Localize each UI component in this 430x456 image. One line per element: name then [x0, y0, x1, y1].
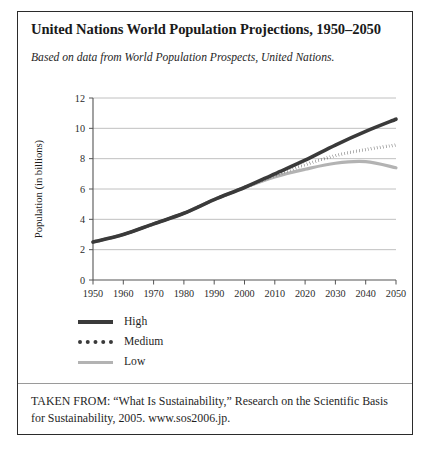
- figure-panel: United Nations World Population Projecti…: [17, 11, 413, 435]
- x-tick-label: 1950: [83, 288, 103, 299]
- x-tick-label: 1960: [113, 288, 133, 299]
- y-tick-label: 4: [80, 214, 85, 225]
- legend-swatch-low: [78, 356, 113, 368]
- legend-swatch-high: [78, 316, 113, 328]
- y-tick-label: 0: [80, 275, 85, 286]
- legend-label: Low: [124, 356, 145, 368]
- source-note: TAKEN FROM: “What Is Sustainability,” Re…: [31, 393, 403, 427]
- y-tick-label: 6: [80, 184, 85, 195]
- x-tick-label: 2020: [295, 288, 315, 299]
- series-line-high: [93, 119, 396, 242]
- legend-swatch-medium: [78, 336, 113, 348]
- x-tick-label: 2030: [325, 288, 345, 299]
- x-tick-label: 2000: [234, 288, 254, 299]
- gridlines: [93, 98, 396, 250]
- y-tick-label: 8: [80, 153, 85, 164]
- y-axis-label: Population (in billions): [33, 139, 45, 238]
- x-axis-ticks: 1950196019701980199020002010202020302040…: [83, 280, 406, 299]
- x-tick-label: 2040: [356, 288, 376, 299]
- y-tick-label: 12: [75, 93, 85, 104]
- chart-title: United Nations World Population Projecti…: [31, 21, 403, 38]
- x-tick-label: 1970: [143, 288, 163, 299]
- legend-swatch-bar: [78, 340, 113, 344]
- legend-item-low: Low: [78, 352, 298, 372]
- legend: HighMediumLow: [78, 312, 298, 372]
- line-chart-svg: 024681012 195019601970198019902000201020…: [18, 74, 414, 299]
- data-series-layer: [93, 119, 396, 242]
- y-tick-label: 10: [75, 123, 85, 134]
- x-tick-label: 2010: [265, 288, 285, 299]
- y-tick-label: 2: [80, 244, 85, 255]
- x-tick-label: 2050: [386, 288, 406, 299]
- legend-label: High: [124, 316, 147, 328]
- footer-divider: [18, 383, 412, 384]
- legend-label: Medium: [124, 336, 163, 348]
- x-tick-label: 1990: [204, 288, 224, 299]
- legend-item-high: High: [78, 312, 298, 332]
- legend-swatch-bar: [78, 320, 113, 324]
- x-tick-label: 1980: [174, 288, 194, 299]
- plot-area: 024681012 195019601970198019902000201020…: [18, 74, 414, 299]
- legend-swatch-bar: [78, 361, 113, 364]
- y-axis-ticks: 024681012: [75, 93, 93, 286]
- legend-item-medium: Medium: [78, 332, 298, 352]
- chart-subtitle: Based on data from World Population Pros…: [31, 51, 403, 64]
